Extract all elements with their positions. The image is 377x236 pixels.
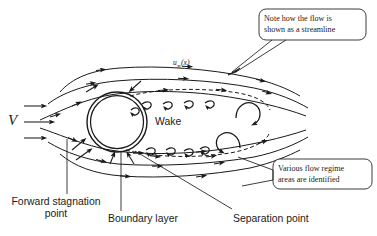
inlet-arrows (24, 106, 52, 138)
freestream-velocity-label: u∞(x) (173, 59, 190, 69)
cylinder (87, 92, 147, 152)
separation-point-label: Separation point (233, 213, 309, 225)
flow-diagram-canvas: V u∞(x) Wake Forward stagnation point Bo… (0, 0, 377, 236)
velocity-label: V (8, 112, 17, 129)
callout-streamline-note-text: Note how the flow is shown as a streamli… (264, 14, 335, 35)
boundary-layer-label: Boundary layer (108, 213, 178, 225)
main-wake-vortex-upper (236, 103, 260, 124)
upper-streamlines (40, 67, 308, 120)
forward-stagnation-point-label: Forward stagnation point (4, 196, 108, 219)
wake-label: Wake (155, 116, 181, 128)
lower-streamline-arrowheads (68, 138, 265, 178)
callout-flow-regime-note-text: Various flow regime areas are identified (278, 164, 344, 185)
freestream-argument: (x) (181, 58, 189, 67)
